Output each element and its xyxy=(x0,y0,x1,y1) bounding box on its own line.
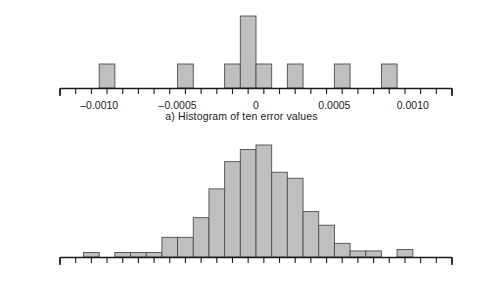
histogram-bar xyxy=(240,16,256,88)
histogram-bar xyxy=(115,252,131,257)
histogram-bar xyxy=(334,243,350,257)
histogram-chart-b xyxy=(0,130,483,265)
histogram-figure: –0.0010–0.000500.00050.0010 a) Histogram… xyxy=(0,0,483,307)
histogram-bar xyxy=(287,64,303,88)
histogram-bar xyxy=(131,252,147,257)
plot-area-a xyxy=(0,0,483,96)
histogram-bar xyxy=(366,251,382,257)
histogram-bar xyxy=(381,64,397,88)
panel-caption-a: a) Histogram of ten error values xyxy=(0,110,483,122)
histogram-panel-b: –0.0010–0.000500.00050.0010 b) Histogram… xyxy=(0,130,483,307)
histogram-bar xyxy=(146,252,162,257)
histogram-bar xyxy=(178,64,194,88)
histogram-panel-a: –0.0010–0.000500.00050.0010 a) Histogram… xyxy=(0,0,483,130)
histogram-bar xyxy=(225,162,241,257)
histogram-bars xyxy=(99,16,397,88)
histogram-bar xyxy=(287,178,303,257)
histogram-chart-a xyxy=(0,0,483,96)
histogram-bar xyxy=(272,172,288,257)
x-axis xyxy=(60,89,452,97)
histogram-bar xyxy=(209,189,225,257)
histogram-bar xyxy=(162,237,178,257)
histogram-bar xyxy=(256,64,272,88)
histogram-bar xyxy=(225,64,241,88)
histogram-bar xyxy=(334,64,350,88)
histogram-bar xyxy=(84,252,100,257)
histogram-bar xyxy=(99,64,115,88)
histogram-bar xyxy=(178,237,194,257)
plot-area-b xyxy=(0,130,483,265)
histogram-bar xyxy=(397,249,413,257)
histogram-bar xyxy=(240,150,256,257)
x-axis xyxy=(60,258,452,266)
histogram-bar xyxy=(303,212,319,257)
histogram-bar xyxy=(256,145,272,257)
histogram-bars xyxy=(84,145,413,257)
histogram-bar xyxy=(319,225,335,257)
histogram-bar xyxy=(350,251,366,257)
histogram-bar xyxy=(193,218,209,257)
